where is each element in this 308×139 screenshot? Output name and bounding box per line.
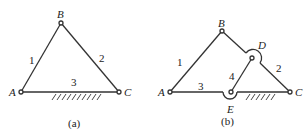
- joint-d: [250, 56, 254, 60]
- link-2-lower: [260, 63, 290, 92]
- label-b-link3: 3: [198, 80, 204, 92]
- label-a-A: A: [8, 86, 16, 98]
- label-b-link4: 4: [229, 70, 235, 82]
- label-b-B: B: [218, 17, 225, 29]
- label-b-D: D: [257, 39, 266, 51]
- link-1: [21, 23, 61, 92]
- label-b-A: A: [157, 86, 165, 98]
- label-a-C: C: [124, 86, 132, 98]
- joint-b: [59, 21, 63, 25]
- link-2-upper: [222, 31, 246, 53]
- label-b-C: C: [295, 86, 303, 98]
- figure-b: [168, 29, 292, 100]
- joint-a: [19, 90, 23, 94]
- caption-a: (a): [68, 117, 81, 130]
- link-2: [61, 23, 119, 92]
- label-a-link2: 2: [99, 52, 105, 64]
- linkage-diagrams: A B C 1 2 3 (a) A B C D E 1 2 3 4 (b): [0, 0, 308, 139]
- label-a-link1: 1: [29, 54, 35, 66]
- label-b-link2: 2: [276, 62, 282, 74]
- ground-hatch: [52, 94, 101, 100]
- joint-a: [168, 90, 172, 94]
- joint-e: [229, 90, 233, 94]
- caption-b: (b): [221, 115, 234, 128]
- ground-hatch: [246, 94, 275, 100]
- label-b-link1: 1: [177, 56, 183, 68]
- joint-c: [288, 90, 292, 94]
- label-a-B: B: [57, 8, 64, 20]
- joint-c: [117, 90, 121, 94]
- label-b-E: E: [226, 103, 234, 115]
- joint-b: [220, 29, 224, 33]
- label-a-link3: 3: [71, 76, 77, 88]
